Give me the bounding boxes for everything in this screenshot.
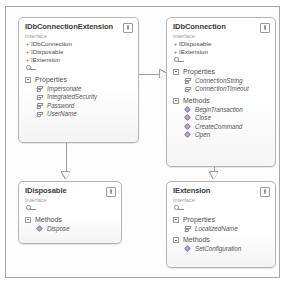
collapse-expander-icon[interactable] xyxy=(25,217,31,223)
base-interface-label: IExtension xyxy=(31,56,60,64)
method-icon xyxy=(184,131,192,139)
member-row[interactable]: LocalizedName xyxy=(173,225,270,234)
member-row[interactable]: IntegratedSecurity xyxy=(25,93,133,102)
member-label: IntegratedSecurity xyxy=(47,93,97,102)
plus-icon: + xyxy=(173,48,178,56)
property-icon xyxy=(184,85,192,93)
connector-connection-to-iextension-arrow xyxy=(210,172,218,179)
interface-badge-icon xyxy=(260,23,270,33)
method-icon xyxy=(184,114,192,122)
group-header-properties[interactable]: Properties xyxy=(173,216,270,224)
base-interface-row: + IExtension xyxy=(25,56,133,64)
member-row[interactable]: ConnectionTimeout xyxy=(173,85,270,94)
group-label: Properties xyxy=(183,216,215,224)
property-icon xyxy=(36,102,44,110)
lollipop-interface-icon xyxy=(174,57,185,65)
member-label: Password xyxy=(47,102,74,111)
member-row[interactable]: UserName xyxy=(25,110,133,119)
base-interface-label: IDbConnection xyxy=(31,40,72,48)
member-row[interactable]: Impersonate xyxy=(25,85,133,94)
plus-icon: + xyxy=(25,48,30,56)
class-box-idisposable[interactable]: IDisposable Interface Methods Dispose xyxy=(18,181,122,244)
method-icon xyxy=(184,123,192,131)
member-label: Close xyxy=(195,114,211,123)
member-label: Dispose xyxy=(47,225,69,234)
group-label: Properties xyxy=(183,68,215,76)
lollipop-interface-icon xyxy=(26,65,37,73)
uml-diagram-canvas: IDbConnectionExtension Interface + IDbCo… xyxy=(0,0,288,295)
collapse-expander-icon[interactable] xyxy=(25,77,31,83)
property-icon xyxy=(36,85,44,93)
member-row[interactable]: CreateCommand xyxy=(173,123,270,132)
member-row[interactable]: Dispose xyxy=(25,225,116,234)
member-label: Open xyxy=(195,131,210,140)
class-header-idbconnection: IDbConnection xyxy=(173,22,270,33)
member-label: LocalizedName xyxy=(195,225,238,234)
plus-icon: + xyxy=(25,56,30,64)
base-interface-label: IDisposable xyxy=(179,40,211,48)
group-header-methods[interactable]: Methods xyxy=(25,216,116,224)
lollipop-stem xyxy=(30,69,36,70)
group-header-methods[interactable]: Methods xyxy=(173,236,270,244)
method-icon xyxy=(184,106,192,114)
member-label: SetConfiguration xyxy=(195,245,241,254)
class-stereotype: Interface xyxy=(25,197,116,204)
lollipop-interface-icon xyxy=(174,205,185,213)
interface-badge-icon xyxy=(123,23,133,33)
collapse-expander-icon[interactable] xyxy=(173,98,179,104)
collapse-expander-icon[interactable] xyxy=(173,69,179,75)
class-stereotype: Interface xyxy=(173,197,270,204)
class-title: IDisposable xyxy=(25,186,67,195)
method-icon xyxy=(36,225,44,233)
base-interface-label: IDisposable xyxy=(31,48,63,56)
plus-icon: + xyxy=(173,40,178,48)
group-header-methods[interactable]: Methods xyxy=(173,97,270,105)
member-row[interactable]: ConnectionString xyxy=(173,77,270,86)
property-icon xyxy=(184,77,192,85)
class-header-iextension: IExtension xyxy=(173,186,270,197)
property-icon xyxy=(36,93,44,101)
group-label: Methods xyxy=(183,236,210,244)
class-box-idbconnection[interactable]: IDbConnection Interface + IDisposable + … xyxy=(166,17,276,167)
method-icon xyxy=(184,245,192,253)
class-header-idisposable: IDisposable xyxy=(25,186,116,197)
class-box-iextension[interactable]: IExtension Interface Properties Localize… xyxy=(166,181,276,268)
base-interface-row: + IDisposable xyxy=(173,40,270,48)
member-row[interactable]: Close xyxy=(173,114,270,123)
property-icon xyxy=(36,110,44,118)
member-label: ConnectionTimeout xyxy=(195,85,249,94)
member-row[interactable]: Password xyxy=(25,102,133,111)
class-title: IDbConnectionExtension xyxy=(25,22,113,31)
base-interface-row: + IDbConnection xyxy=(25,40,133,48)
class-box-idbconnectionextension[interactable]: IDbConnectionExtension Interface + IDbCo… xyxy=(18,17,139,143)
member-label: BeginTransaction xyxy=(195,106,243,115)
lollipop-stem xyxy=(30,209,36,210)
collapse-expander-icon[interactable] xyxy=(173,237,179,243)
member-label: CreateCommand xyxy=(195,123,242,132)
class-stereotype: Interface xyxy=(25,33,133,40)
member-label: ConnectionString xyxy=(195,77,243,86)
lollipop-stem xyxy=(178,61,184,62)
connector-extension-to-disposable-arrow xyxy=(62,172,70,179)
member-label: UserName xyxy=(47,110,77,119)
collapse-expander-icon[interactable] xyxy=(173,217,179,223)
interface-badge-icon xyxy=(106,187,116,197)
class-title: IExtension xyxy=(173,186,210,195)
member-row[interactable]: SetConfiguration xyxy=(173,245,270,254)
group-label: Methods xyxy=(183,97,210,105)
class-title: IDbConnection xyxy=(173,22,226,31)
class-header-idbconnectionextension: IDbConnectionExtension xyxy=(25,22,133,33)
member-row[interactable]: Open xyxy=(173,131,270,140)
group-header-properties[interactable]: Properties xyxy=(25,76,133,84)
base-interface-label: IExtension xyxy=(179,48,208,56)
group-label: Properties xyxy=(35,76,67,84)
group-label: Methods xyxy=(35,216,62,224)
plus-icon: + xyxy=(25,40,30,48)
property-icon xyxy=(184,225,192,233)
base-interface-row: + IExtension xyxy=(173,48,270,56)
member-row[interactable]: BeginTransaction xyxy=(173,106,270,115)
lollipop-interface-icon xyxy=(26,205,37,213)
group-header-properties[interactable]: Properties xyxy=(173,68,270,76)
base-interface-row: + IDisposable xyxy=(25,48,133,56)
interface-badge-icon xyxy=(260,187,270,197)
